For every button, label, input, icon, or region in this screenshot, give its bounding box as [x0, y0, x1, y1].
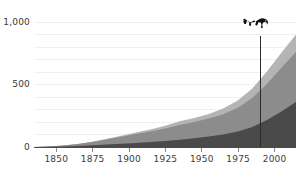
chart-canvas: 1,000 500 0 1850 1875 1900 1925 1950 197…: [0, 0, 300, 176]
dinosaur-silhouette-icon: [243, 18, 268, 28]
y-tick-label-0: 0: [24, 142, 30, 152]
y-tick-label-500: 500: [12, 79, 30, 89]
area-chart: 1,000 500 0 1850 1875 1900 1925 1950 197…: [0, 0, 300, 176]
x-tick-marks: [56, 148, 274, 152]
x-tick-label-1950: 1950: [190, 154, 214, 164]
x-tick-label-1850: 1850: [44, 154, 68, 164]
x-tick-label-1975: 1975: [226, 154, 250, 164]
x-tick-label-1925: 1925: [154, 154, 178, 164]
x-tick-label-1875: 1875: [81, 154, 105, 164]
y-tick-label-1000: 1,000: [3, 17, 30, 27]
x-tick-label-1900: 1900: [117, 154, 141, 164]
x-tick-label-2000: 2000: [263, 154, 287, 164]
